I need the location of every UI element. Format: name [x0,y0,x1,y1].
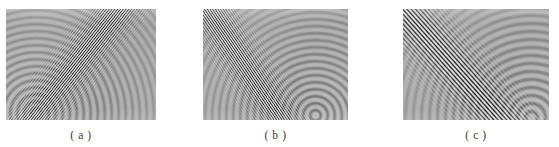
figure-root: ( a ) ( b ) ( c ) [0,0,559,147]
panel-group-c: ( c ) [403,9,549,147]
interferogram-image-a [6,9,156,120]
panel-caption-c: ( c ) [403,130,549,142]
panel-group-a: ( a ) [6,9,156,147]
interferogram-image-c [403,9,549,120]
panel-caption-a: ( a ) [6,130,156,142]
panel-caption-b: ( b ) [203,130,348,142]
interferogram-image-b [203,9,348,120]
panel-group-b: ( b ) [203,9,348,147]
